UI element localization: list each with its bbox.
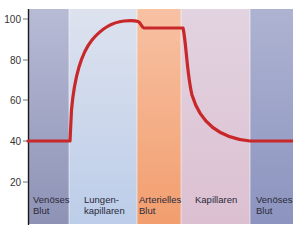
band-label-venous-right-line2: Blut — [256, 205, 273, 216]
y-tick-label-60: 60 — [10, 95, 22, 106]
band-venous-blood-right — [250, 9, 293, 224]
band-label-arterial-line1: Arterielles — [139, 194, 181, 205]
y-tick-label-40: 40 — [10, 136, 22, 147]
oxygen-saturation-chart: 100 80 60 40 20 Venöses Blut Lungen- kap… — [0, 0, 293, 227]
y-tick-label-20: 20 — [10, 177, 22, 188]
y-tick-label-100: 100 — [4, 14, 21, 25]
band-label-capillaries: Kapillaren — [195, 194, 237, 205]
band-label-venous-left-line2: Blut — [33, 205, 50, 216]
region-bands — [28, 9, 293, 224]
band-arterial-blood — [137, 9, 181, 224]
band-lung-capillaries — [69, 9, 137, 224]
y-axis: 100 80 60 40 20 — [4, 9, 28, 225]
y-tick-label-80: 80 — [10, 55, 22, 66]
band-label-venous-left-line1: Venöses — [33, 194, 70, 205]
band-venous-blood-left — [28, 9, 69, 224]
band-label-arterial-line2: Blut — [139, 205, 156, 216]
band-label-lung-line2: kapillaren — [84, 205, 125, 216]
band-label-lung-line1: Lungen- — [84, 194, 119, 205]
band-label-venous-right-line1: Venöses — [256, 194, 293, 205]
band-capillaries — [181, 9, 250, 224]
